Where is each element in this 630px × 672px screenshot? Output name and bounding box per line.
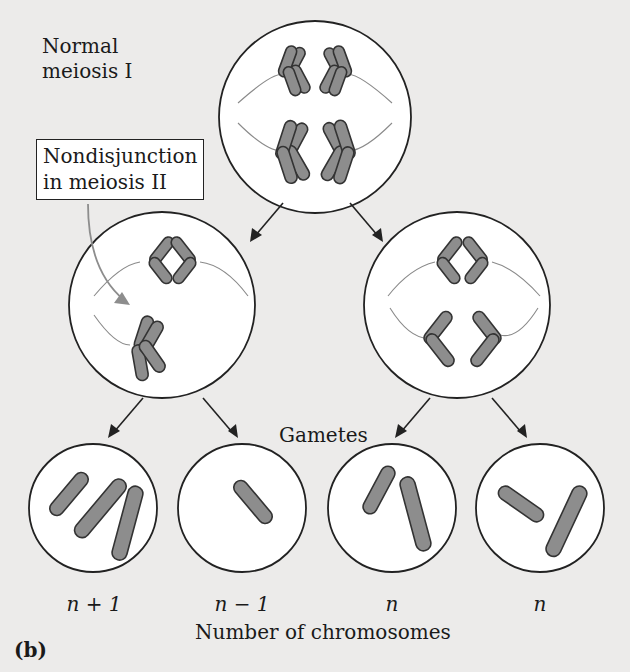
count-label-n-minus-1: n − 1 bbox=[212, 592, 272, 617]
gamete-n-left bbox=[328, 444, 456, 572]
panel-label: (b) bbox=[14, 638, 47, 663]
gametes-label: Gametes bbox=[279, 423, 368, 448]
count-label-n-plus-1: n + 1 bbox=[64, 592, 124, 617]
count-label-n: n bbox=[510, 592, 570, 617]
arrow-icon bbox=[395, 398, 430, 438]
meiosis-ii-right-cell bbox=[364, 212, 550, 398]
meiosis-i-cell bbox=[219, 21, 411, 213]
axis-label: Number of chromosomes bbox=[195, 620, 451, 645]
meiosis-diagram bbox=[0, 0, 630, 672]
arrow-icon bbox=[250, 203, 283, 242]
gamete-n-minus-1 bbox=[178, 444, 306, 572]
arrow-icon bbox=[108, 398, 143, 438]
gamete-n-plus-1 bbox=[29, 444, 157, 572]
count-label-n: n bbox=[362, 592, 422, 617]
arrow-icon bbox=[492, 398, 527, 438]
nondisjunction-callout: Nondisjunction in meiosis II bbox=[36, 139, 204, 200]
meiosis-ii-left-cell bbox=[69, 212, 255, 398]
gamete-n-right bbox=[476, 444, 604, 572]
callout-text: Nondisjunction in meiosis II bbox=[43, 143, 197, 195]
arrow-icon bbox=[350, 203, 383, 242]
arrow-icon bbox=[203, 398, 238, 438]
meiosis-i-label: Normal meiosis I bbox=[42, 34, 132, 84]
